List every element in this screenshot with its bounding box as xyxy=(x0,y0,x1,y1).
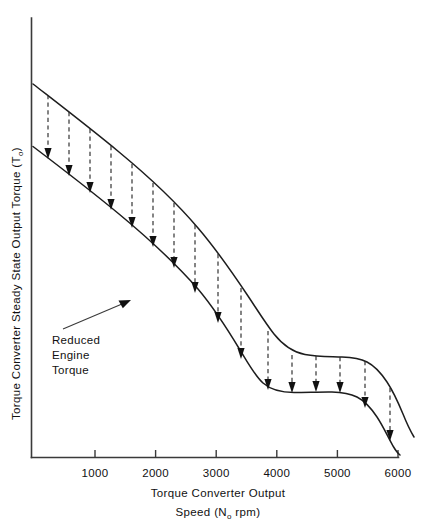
annotation-leader-line xyxy=(63,304,122,329)
x-axis-title: Torque Converter Output Speed (No rpm) xyxy=(151,487,286,521)
axes xyxy=(32,18,399,458)
connector-12 xyxy=(288,355,295,393)
reduced-engine-torque-annotation: Reduced Engine Torque xyxy=(52,300,131,376)
chart-container: 1000 2000 3000 4000 5000 6000 Torque Con… xyxy=(0,0,426,532)
x-tick-label-5000: 5000 xyxy=(324,467,351,479)
annotation-text: Reduced Engine Torque xyxy=(52,334,100,376)
connector-11 xyxy=(264,331,271,390)
connector-16 xyxy=(386,388,393,441)
connector-14 xyxy=(336,357,343,393)
reduction-connectors xyxy=(44,95,393,441)
annotation-line-3: Torque xyxy=(52,364,89,376)
y-axis-title: Torque Converter Steady State Output Tor… xyxy=(10,147,25,420)
x-tick-label-2000: 2000 xyxy=(142,467,169,479)
connector-5 xyxy=(128,164,135,228)
y-axis-title-text: Torque Converter Steady State Output Tor… xyxy=(10,147,25,420)
x-axis-title-line1: Torque Converter Output xyxy=(151,487,286,499)
connector-13 xyxy=(312,356,319,392)
connector-3 xyxy=(86,129,93,193)
x-tick-label-1000: 1000 xyxy=(82,467,109,479)
connector-10 xyxy=(237,288,244,359)
connector-7 xyxy=(170,203,177,268)
arrowhead-icon xyxy=(214,312,221,323)
arrowhead-icon xyxy=(336,382,343,393)
torque-converter-chart: 1000 2000 3000 4000 5000 6000 Torque Con… xyxy=(0,0,426,532)
connector-6 xyxy=(149,183,156,247)
x-tick-label-3000: 3000 xyxy=(203,467,230,479)
x-tick-label-4000: 4000 xyxy=(263,467,290,479)
curve-lower-reduced-engine-torque xyxy=(33,147,400,456)
arrowhead-icon xyxy=(312,381,319,392)
connector-1 xyxy=(44,95,51,159)
connector-9 xyxy=(214,254,221,323)
x-axis-ticks xyxy=(95,450,398,458)
annotation-line-2: Engine xyxy=(52,349,90,361)
x-tick-labels: 1000 2000 3000 4000 5000 6000 xyxy=(82,467,412,479)
connector-8 xyxy=(191,225,198,293)
x-axis-title-line2: Speed (No rpm) xyxy=(176,506,261,521)
arrowhead-icon xyxy=(237,348,244,359)
arrowhead-icon xyxy=(288,382,295,393)
annotation-line-1: Reduced xyxy=(52,334,100,346)
arrowhead-icon xyxy=(86,182,93,193)
arrowhead-icon xyxy=(65,165,72,176)
x-tick-label-6000: 6000 xyxy=(385,467,412,479)
arrowhead-icon xyxy=(361,397,368,408)
arrowhead-icon xyxy=(44,148,51,159)
connector-2 xyxy=(65,112,72,176)
connector-4 xyxy=(107,146,114,210)
